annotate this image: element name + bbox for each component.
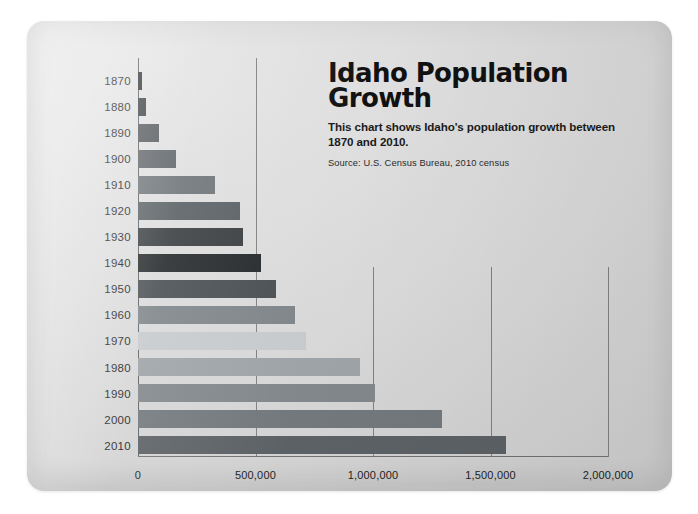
bar — [138, 72, 142, 90]
gridline — [608, 267, 609, 457]
bar-row — [138, 224, 608, 250]
bar — [138, 228, 243, 246]
bar — [138, 332, 306, 350]
year-label: 1880 — [67, 94, 131, 120]
bar — [138, 306, 295, 324]
bar — [138, 98, 146, 116]
year-label: 1920 — [67, 198, 131, 224]
bar — [138, 280, 276, 298]
year-label: 1960 — [67, 302, 131, 328]
bar — [138, 254, 261, 272]
bar-row — [138, 250, 608, 276]
bar-row — [138, 433, 608, 459]
year-label: 1970 — [67, 328, 131, 354]
bar — [138, 176, 215, 194]
year-label: 2000 — [67, 407, 131, 433]
bar-row — [138, 328, 608, 354]
bar-row — [138, 172, 608, 198]
title-block: Idaho Population Growth This chart shows… — [328, 61, 638, 168]
x-tick-label: 500,000 — [235, 469, 276, 481]
x-tick-label: 1,500,000 — [465, 469, 516, 481]
bar — [138, 124, 159, 142]
bar — [138, 358, 360, 376]
x-tick-label: 0 — [135, 469, 141, 481]
x-tick-label: 2,000,000 — [583, 469, 634, 481]
bar-row — [138, 381, 608, 407]
year-label: 2010 — [67, 433, 131, 459]
bar-row — [138, 198, 608, 224]
bar — [138, 202, 240, 220]
bar-row — [138, 355, 608, 381]
bar-row — [138, 302, 608, 328]
y-axis-year-labels: 1870188018901900191019201930194019501960… — [67, 68, 131, 459]
chart-title: Idaho Population Growth — [328, 61, 638, 112]
bar — [138, 384, 375, 402]
year-label: 1980 — [67, 355, 131, 381]
year-label: 1870 — [67, 68, 131, 94]
year-label: 1890 — [67, 120, 131, 146]
chart-source: Source: U.S. Census Bureau, 2010 census — [328, 158, 638, 168]
chart-subtitle: This chart shows Idaho's population grow… — [328, 119, 638, 150]
bar — [138, 410, 442, 428]
x-tick-label: 1,000,000 — [348, 469, 399, 481]
x-axis-line — [138, 456, 608, 457]
year-label: 1910 — [67, 172, 131, 198]
year-label: 1950 — [67, 276, 131, 302]
year-label: 1900 — [67, 146, 131, 172]
year-label: 1940 — [67, 250, 131, 276]
chart-card: 1870188018901900191019201930194019501960… — [27, 21, 672, 491]
bar-row — [138, 407, 608, 433]
year-label: 1990 — [67, 381, 131, 407]
bar — [138, 150, 176, 168]
year-label: 1930 — [67, 224, 131, 250]
bar — [138, 436, 506, 454]
bar-row — [138, 276, 608, 302]
